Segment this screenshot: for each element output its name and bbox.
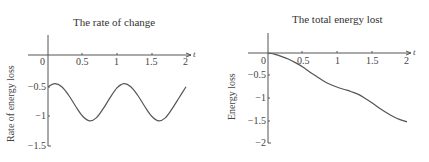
- energy-tick-x1: 0.5: [297, 55, 310, 66]
- rate-tick-x1: 0.5: [76, 56, 89, 67]
- rate-curve: [48, 84, 186, 121]
- rate-tick-y2: −1.5: [28, 140, 46, 151]
- energy-chart: [248, 33, 411, 143]
- rate-tick-x3: 1.5: [145, 56, 158, 67]
- rate-tick-x2: 1: [114, 56, 119, 67]
- energy-tick-y1: −0.5: [248, 69, 266, 80]
- rate-tick-x4: 2: [183, 56, 188, 67]
- rate-chart: [28, 35, 191, 146]
- energy-tick-y4: −2: [255, 137, 266, 148]
- energy-x-label: t: [413, 47, 416, 57]
- rate-tick-y1: −1: [35, 110, 46, 121]
- energy-tick-x3: 1.5: [366, 55, 379, 66]
- energy-tick-x2: 1: [335, 55, 340, 66]
- energy-y-label: Energy loss: [226, 73, 237, 120]
- energy-tick-y2: −1: [255, 92, 266, 103]
- energy-tick-y3: −1.5: [248, 115, 266, 126]
- rate-y-label: Rate of energy loss: [5, 65, 16, 142]
- energy-tick-x4: 2: [404, 55, 409, 66]
- charts-canvas: t 0 0.5 1 1.5 2 −0.5 −1 −1.5 Rate of ene…: [0, 0, 429, 162]
- rate-tick-y0: −0.5: [28, 81, 46, 92]
- rate-tick-x0: 0: [40, 56, 45, 67]
- energy-tick-x0: 0: [261, 55, 266, 66]
- rate-x-label: t: [193, 49, 196, 59]
